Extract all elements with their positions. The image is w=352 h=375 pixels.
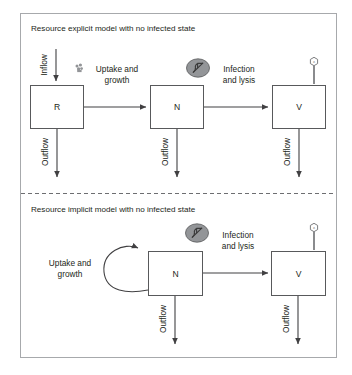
bacteria-icon-2 — [186, 224, 209, 242]
infection-lysis-2-label-line1: Infection — [222, 230, 254, 240]
phage-head-glyph-2: z — [313, 225, 315, 230]
bottom-panel-title: Resource implicit model with no infected… — [31, 205, 196, 214]
uptake-growth-label-line2: growth — [105, 75, 130, 85]
bacteria-icon — [187, 59, 210, 77]
uptake-growth-loop-label-line1: Uptake and — [49, 258, 92, 268]
figure-container: Resource explicit model with no infected… — [0, 0, 352, 375]
outflow-label-v: Outflow — [282, 137, 292, 166]
state-box-v-label: V — [296, 102, 302, 112]
infection-lysis-label-line2: and lysis — [223, 75, 255, 85]
top-panel-title: Resource explicit model with no infected… — [31, 24, 196, 33]
outflow-label-n2: Outflow — [158, 304, 168, 333]
inflow-label-r: Inflow — [39, 53, 49, 76]
outflow-label-n: Outflow — [160, 137, 170, 166]
state-box-n2-label: N — [172, 269, 178, 279]
state-box-r-label: R — [54, 102, 60, 112]
outflow-label-r: Outflow — [40, 137, 50, 166]
uptake-growth-label-line1: Uptake and — [96, 64, 139, 74]
infection-lysis-2-label-line2: and lysis — [222, 241, 254, 251]
phage-head-glyph: z — [313, 59, 315, 64]
infection-lysis-label-line1: Infection — [223, 64, 255, 74]
state-box-v2-label: V — [296, 269, 302, 279]
uptake-growth-loop-label-line2: growth — [58, 269, 83, 279]
outflow-label-v2: Outflow — [281, 304, 291, 333]
model-diagram: Resource explicit model with no infected… — [0, 0, 352, 375]
state-box-n-label: N — [174, 102, 180, 112]
